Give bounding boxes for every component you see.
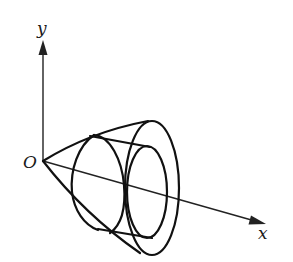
y-axis-label: y [36, 18, 47, 38]
x-axis [43, 161, 266, 225]
cone-cylinder-diagram: y O x [0, 0, 293, 262]
cone-outline [43, 121, 179, 255]
inner-cylinder [72, 135, 167, 238]
cylinder-top-edge [90, 136, 150, 147]
origin-label: O [23, 152, 37, 172]
x-axis-label: x [258, 223, 268, 243]
y-axis [39, 40, 48, 161]
cylinder-back-ellipse [127, 146, 167, 238]
cylinder-front-arc-right [94, 135, 124, 233]
y-axis-arrow-icon [39, 40, 48, 55]
diagram-canvas: y O x [0, 0, 293, 262]
